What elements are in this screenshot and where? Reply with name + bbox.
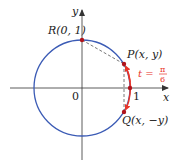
point-P-label: P(x, y) (126, 48, 162, 61)
point-R (80, 38, 84, 42)
point-P (122, 62, 126, 66)
chord-RP (82, 40, 124, 64)
tick-one-label: 1 (133, 90, 140, 103)
y-axis-label: y (71, 5, 79, 18)
point-R-label: R(0, 1) (47, 24, 86, 37)
x-axis-label: x (163, 91, 170, 104)
arc-six-label: 6 (160, 75, 165, 84)
point-Q-label: Q(x, −y) (122, 114, 168, 127)
unit-circle-diagram: y x 0 1 R(0, 1) P(x, y) Q(x, −y) t = π 6 (0, 0, 179, 165)
arc-to-Q (126, 94, 130, 109)
point-one (128, 86, 132, 90)
arc-pi-label: π (160, 65, 165, 74)
arc-t-label: t = (138, 68, 154, 79)
origin-label: 0 (72, 90, 79, 103)
